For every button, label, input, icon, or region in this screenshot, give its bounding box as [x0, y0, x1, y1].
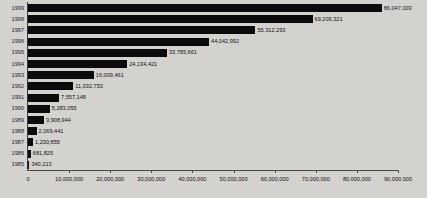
x-axis-tick-label: 30,000,000	[137, 175, 165, 183]
bar-row: 1985340,213	[0, 159, 427, 170]
bar-row: 199644,042,992	[0, 36, 427, 47]
bar-value-label: 86,047,003	[384, 3, 412, 14]
y-axis-tick-label: 1988	[0, 126, 24, 137]
bar-fill	[28, 127, 37, 135]
x-axis-tick-label: 20,000,000	[96, 175, 124, 183]
bar-row: 1986681,825	[0, 148, 427, 159]
bar	[28, 49, 167, 57]
y-axis-tick-label: 1987	[0, 137, 24, 148]
x-axis-tick-mark	[69, 170, 70, 173]
y-axis-tick-label: 1995	[0, 47, 24, 58]
bar-fill	[28, 138, 33, 146]
bar-fill	[28, 71, 94, 79]
bar-row: 19871,230,855	[0, 137, 427, 148]
y-axis-tick-label: 1994	[0, 59, 24, 70]
y-axis-tick-label: 1998	[0, 14, 24, 25]
bar-value-label: 44,042,992	[211, 36, 239, 47]
bar-row: 199424,134,421	[0, 59, 427, 70]
bar-value-label: 681,825	[33, 148, 53, 159]
x-axis-tick-mark	[151, 170, 152, 173]
x-axis-tick-label: 70,000,000	[302, 175, 330, 183]
bar-fill	[28, 49, 167, 57]
bar-fill	[28, 26, 255, 34]
y-axis-tick-label: 1999	[0, 3, 24, 14]
x-axis-tick-label: 50,000,000	[220, 175, 248, 183]
bar	[28, 4, 382, 12]
bar	[28, 26, 255, 34]
bar-value-label: 1,230,855	[35, 137, 60, 148]
bar-row: 19905,283,055	[0, 103, 427, 114]
bar-fill	[28, 161, 29, 169]
bar	[28, 127, 37, 135]
bar-fill	[28, 82, 73, 90]
bar-value-label: 3,908,944	[46, 115, 71, 126]
bar-fill	[28, 94, 59, 102]
bar-value-label: 69,209,321	[315, 14, 343, 25]
bar-fill	[28, 60, 127, 68]
y-axis-tick-label: 1992	[0, 81, 24, 92]
bar-value-label: 7,557,148	[61, 92, 86, 103]
bar-value-label: 340,213	[31, 159, 51, 170]
bar-row: 19893,908,944	[0, 115, 427, 126]
bar	[28, 138, 33, 146]
bar	[28, 105, 50, 113]
y-axis-tick-label: 1985	[0, 159, 24, 170]
bar-row: 199211,032,753	[0, 81, 427, 92]
bar	[28, 116, 44, 124]
x-axis-tick-mark	[192, 170, 193, 173]
bar-value-label: 24,134,421	[129, 59, 157, 70]
x-axis-tick-label: 80,000,000	[343, 175, 371, 183]
x-axis-tick-mark	[234, 170, 235, 173]
bar	[28, 150, 31, 158]
y-axis-tick-label: 1997	[0, 25, 24, 36]
x-axis-tick-label: 90,000,000	[384, 175, 412, 183]
bar-fill	[28, 38, 209, 46]
bar	[28, 38, 209, 46]
x-axis-tick-label: 60,000,000	[261, 175, 289, 183]
bar-row: 199316,009,461	[0, 70, 427, 81]
bar	[28, 71, 94, 79]
bar	[28, 15, 313, 23]
x-axis-tick-mark	[316, 170, 317, 173]
bar	[28, 82, 73, 90]
bar-fill	[28, 116, 44, 124]
x-axis-tick-mark	[110, 170, 111, 173]
x-axis-tick-mark	[398, 170, 399, 173]
bar	[28, 60, 127, 68]
bar	[28, 94, 59, 102]
bar	[28, 161, 29, 169]
bar-value-label: 33,785,661	[169, 47, 197, 58]
y-axis-tick-label: 1986	[0, 148, 24, 159]
y-axis-tick-label: 1989	[0, 115, 24, 126]
bar-value-label: 2,069,441	[39, 126, 64, 137]
y-axis-tick-label: 1991	[0, 92, 24, 103]
bar-row: 199755,312,293	[0, 25, 427, 36]
bar-value-label: 11,032,753	[75, 81, 103, 92]
y-axis-tick-label: 1993	[0, 70, 24, 81]
bar-row: 199986,047,003	[0, 3, 427, 14]
y-axis-tick-label: 1990	[0, 103, 24, 114]
bar-chart: 199986,047,003199869,209,321199755,312,2…	[0, 0, 427, 198]
bar-value-label: 55,312,293	[257, 25, 285, 36]
bar-row: 199533,785,661	[0, 47, 427, 58]
bar-fill	[28, 4, 382, 12]
bar-row: 19917,557,148	[0, 92, 427, 103]
x-axis-tick-label: 10,000,000	[55, 175, 83, 183]
bar-row: 19882,069,441	[0, 126, 427, 137]
bar-row: 199869,209,321	[0, 14, 427, 25]
x-axis-tick-mark	[357, 170, 358, 173]
x-axis-tick-mark	[275, 170, 276, 173]
x-axis-tick-label: 40,000,000	[178, 175, 206, 183]
bar-fill	[28, 105, 50, 113]
bar-value-label: 16,009,461	[96, 70, 124, 81]
bar-value-label: 5,283,055	[52, 103, 77, 114]
y-axis-tick-label: 1996	[0, 36, 24, 47]
x-axis-tick-label: 0	[26, 175, 29, 183]
bar-fill	[28, 15, 313, 23]
bar-fill	[28, 150, 31, 158]
